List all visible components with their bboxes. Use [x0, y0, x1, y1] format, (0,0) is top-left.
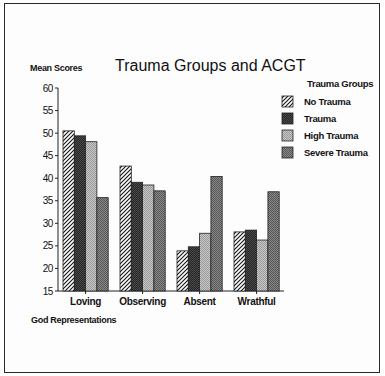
y-tick-label: 50	[43, 128, 54, 139]
y-tick-label: 15	[43, 286, 54, 297]
category-label: Wrathful	[238, 296, 276, 307]
bar-wrathful-high-trauma	[257, 240, 268, 291]
bar-wrathful-trauma	[245, 230, 256, 291]
bar-loving-severe-trauma	[97, 198, 108, 291]
legend-swatch-high-trauma	[282, 130, 293, 141]
bar-observing-trauma	[131, 182, 142, 291]
bar-loving-high-trauma	[86, 142, 97, 291]
legend-swatch-severe-trauma	[282, 147, 293, 158]
y-tick-label: 60	[43, 83, 54, 94]
bar-wrathful-no-trauma	[234, 232, 245, 291]
legend-swatch-trauma	[282, 113, 293, 124]
bar-absent-no-trauma	[177, 251, 188, 291]
y-tick-label: 30	[43, 218, 54, 229]
bar-loving-no-trauma	[63, 131, 74, 291]
y-tick-label: 55	[43, 105, 54, 116]
category-labels: LovingObservingAbsentWrathful	[70, 296, 276, 307]
bar-wrathful-severe-trauma	[268, 192, 279, 291]
y-tick-label: 35	[43, 195, 54, 206]
legend-label: No Trauma	[304, 96, 351, 107]
bars	[63, 131, 279, 291]
category-label: Observing	[119, 296, 166, 307]
legend-label: High Trauma	[304, 130, 359, 141]
category-label: Loving	[70, 296, 101, 307]
bar-chart: Trauma Groups and ACGT Mean Scores God R…	[0, 0, 385, 376]
legend-label: Severe Trauma	[304, 147, 369, 158]
x-axis-label: God Representations	[31, 315, 117, 325]
y-axis-label: Mean Scores	[30, 63, 83, 73]
bar-observing-high-trauma	[143, 185, 154, 291]
bar-absent-severe-trauma	[211, 176, 222, 291]
y-tick-label: 45	[43, 150, 54, 161]
legend: Trauma Groups No TraumaTraumaHigh Trauma…	[282, 78, 373, 158]
bar-observing-no-trauma	[120, 166, 131, 291]
chart-title: Trauma Groups and ACGT	[115, 57, 306, 74]
legend-label: Trauma	[304, 113, 337, 124]
bar-observing-severe-trauma	[154, 191, 165, 291]
category-label: Absent	[184, 296, 217, 307]
y-tick-label: 20	[43, 263, 54, 274]
legend-swatch-no-trauma	[282, 96, 293, 107]
bar-absent-trauma	[188, 247, 199, 291]
y-tick-label: 40	[43, 173, 54, 184]
y-tick-label: 25	[43, 240, 54, 251]
bar-loving-trauma	[74, 136, 85, 291]
bar-absent-high-trauma	[200, 233, 211, 291]
legend-title: Trauma Groups	[307, 78, 373, 89]
